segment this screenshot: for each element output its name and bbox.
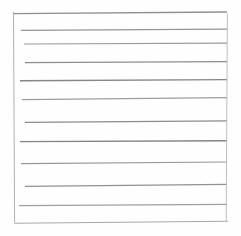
- right-margin-rule: [226, 14, 227, 223]
- rule-line-12: [14, 221, 228, 223]
- scanned-paper-image: Scanned blank sheet of lined writing pap…: [0, 0, 241, 236]
- rule-line-7: [25, 121, 227, 123]
- paper-rules-layer: [0, 0, 241, 236]
- rule-line-2: [21, 29, 227, 30]
- rule-line-5: [20, 80, 227, 81]
- rule-line-6: [22, 98, 227, 100]
- rule-line-8: [20, 141, 227, 142]
- rule-line-3: [24, 43, 227, 44]
- left-margin-rule: [14, 12, 15, 222]
- rule-line-9: [21, 162, 227, 164]
- rule-line-11: [19, 204, 227, 205]
- rule-line-1: [14, 12, 227, 14]
- rule-line-10: [25, 184, 227, 186]
- rule-line-4: [25, 62, 227, 63]
